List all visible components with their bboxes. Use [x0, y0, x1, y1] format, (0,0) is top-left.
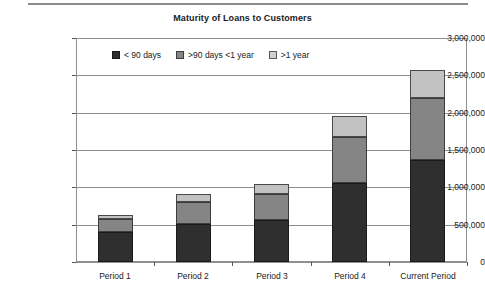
bar-1: [176, 38, 211, 262]
legend-swatch-icon-0: [112, 51, 120, 59]
bar-segment-4-1: [410, 98, 445, 160]
legend-swatch-icon-2: [269, 51, 277, 59]
bar-segment-1-2: [176, 194, 211, 202]
y-tick-mark-1: [72, 75, 76, 76]
bar-segment-3-2: [332, 116, 367, 137]
y-tick-mark-6: [72, 262, 76, 263]
bar-segment-3-0: [332, 183, 367, 262]
bar-2: [254, 38, 289, 262]
bar-segment-0-0: [98, 232, 133, 262]
chart-page: Maturity of Loans to Customers 3,000,000…: [0, 0, 485, 306]
bar-segment-0-1: [98, 219, 133, 232]
chart-title: Maturity of Loans to Customers: [0, 13, 485, 23]
bar-0: [98, 38, 133, 262]
bar-segment-0-2: [98, 215, 133, 219]
y-tick-mark-2: [72, 113, 76, 114]
x-tick-mark-0: [154, 262, 155, 266]
bar-segment-1-0: [176, 224, 211, 262]
x-tick-label-3: Period 4: [334, 271, 366, 281]
legend-item-1: >90 days <1 year: [176, 50, 254, 60]
bar-segment-4-2: [410, 70, 445, 98]
y-tick-mark-3: [72, 150, 76, 151]
bar-4: [410, 38, 445, 262]
bar-segment-2-1: [254, 194, 289, 221]
legend-label-2: >1 year: [281, 50, 310, 60]
top-divider-rule: [28, 3, 468, 5]
legend-item-0: < 90 days: [112, 50, 161, 60]
bar-3: [332, 38, 367, 262]
legend-label-1: >90 days <1 year: [188, 50, 254, 60]
x-tick-label-1: Period 2: [177, 271, 209, 281]
bar-segment-2-0: [254, 220, 289, 262]
legend-label-0: < 90 days: [124, 50, 161, 60]
x-tick-mark-1: [232, 262, 233, 266]
bar-segment-1-1: [176, 202, 211, 224]
x-tick-mark-4: [467, 262, 468, 266]
gridline-6: [76, 262, 467, 263]
y-tick-mark-4: [72, 187, 76, 188]
x-tick-label-0: Period 1: [99, 271, 131, 281]
legend-swatch-icon-1: [176, 51, 184, 59]
x-tick-mark-3: [389, 262, 390, 266]
legend-item-2: >1 year: [269, 50, 310, 60]
x-tick-mark-2: [311, 262, 312, 266]
bar-segment-3-1: [332, 137, 367, 183]
y-tick-mark-5: [72, 225, 76, 226]
chart-legend: < 90 days >90 days <1 year >1 year: [112, 50, 309, 60]
bar-segment-2-2: [254, 184, 289, 193]
y-tick-mark-0: [72, 38, 76, 39]
x-tick-label-4: Current Period: [400, 271, 455, 281]
bar-segment-4-0: [410, 160, 445, 262]
x-tick-label-2: Period 3: [256, 271, 288, 281]
